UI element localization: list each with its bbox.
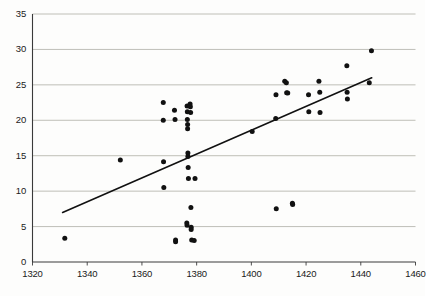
data-point-46: [345, 90, 350, 95]
y-tick-label-5: 5: [0, 221, 26, 232]
data-point-42: [316, 79, 321, 84]
data-point-32: [273, 92, 278, 97]
data-point-7: [173, 117, 178, 122]
data-point-12: [185, 117, 190, 122]
data-point-16: [185, 154, 190, 159]
x-tick-label-1340: 1340: [67, 268, 107, 279]
x-tick-label-1320: 1320: [13, 268, 53, 279]
trend-line: [63, 78, 372, 213]
y-tick-label-35: 35: [0, 8, 26, 19]
data-point-18: [186, 176, 191, 181]
x-tick-label-1420: 1420: [286, 268, 326, 279]
y-tick-label-30: 30: [0, 43, 26, 54]
y-tick-label-15: 15: [0, 150, 26, 161]
y-tick-label-20: 20: [0, 114, 26, 125]
data-point-30: [250, 129, 255, 134]
data-point-26: [189, 227, 194, 232]
data-point-4: [161, 159, 166, 164]
data-point-13: [185, 122, 190, 127]
data-point-17: [186, 165, 191, 170]
x-tick-label-1380: 1380: [177, 268, 217, 279]
data-point-35: [284, 80, 289, 85]
y-tick-label-10: 10: [0, 185, 26, 196]
data-point-47: [345, 97, 350, 102]
data-point-41: [306, 109, 311, 114]
data-point-45: [344, 63, 349, 68]
data-point-2: [161, 100, 166, 105]
x-tick-label-1440: 1440: [341, 268, 381, 279]
data-point-24: [188, 205, 193, 210]
data-point-6: [172, 108, 177, 113]
data-point-14: [185, 126, 190, 131]
data-point-5: [161, 185, 166, 190]
x-tick-label-1460: 1460: [396, 268, 430, 279]
x-tick-label-1400: 1400: [231, 268, 271, 279]
y-tick-label-25: 25: [0, 79, 26, 90]
data-point-9: [173, 239, 178, 244]
data-point-29: [193, 176, 198, 181]
data-point-37: [285, 91, 290, 96]
data-point-22: [188, 104, 193, 109]
data-point-3: [161, 118, 166, 123]
data-point-48: [367, 80, 372, 85]
y-tick-label-0: 0: [0, 256, 26, 267]
x-tick-label-1360: 1360: [122, 268, 162, 279]
data-point-49: [369, 48, 374, 53]
data-point-33: [274, 206, 279, 211]
data-point-0: [62, 236, 67, 241]
data-point-28: [192, 238, 197, 243]
data-point-44: [318, 110, 323, 115]
data-point-31: [273, 116, 278, 121]
data-point-23: [188, 110, 193, 115]
data-point-1: [118, 157, 123, 162]
data-point-40: [306, 92, 311, 97]
data-point-39: [290, 202, 295, 207]
data-point-43: [317, 90, 322, 95]
